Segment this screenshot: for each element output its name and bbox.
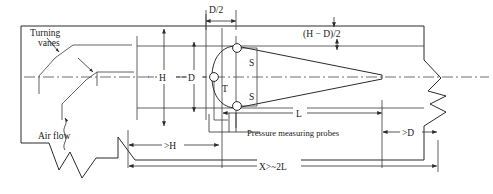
air-flow-label: Air flow (38, 131, 71, 141)
dimension-label-gap: (H − D)/2 (303, 29, 341, 40)
dimension-label-greater-h: >H (164, 141, 176, 151)
diagram-canvas: Turning vanes Air flow (0, 0, 493, 194)
dimension-label-greater-d: >D (402, 128, 414, 138)
turning-vanes-label-line1: Turning (30, 28, 61, 38)
dimension-label-d: D (188, 73, 195, 83)
turning-vanes-label-line2: vanes (38, 38, 60, 48)
probe-label-t: T (222, 84, 228, 94)
static-probe-bottom (233, 102, 242, 111)
dimension-label-h: H (159, 73, 166, 83)
dimension-label-l: L (296, 109, 302, 119)
pressure-probes-group (210, 44, 257, 120)
dimension-label-total-x: X>~2L (259, 162, 287, 172)
static-probe-top (233, 44, 242, 53)
turning-vanes-group (39, 45, 134, 120)
probe-label-s-top: S (249, 58, 254, 68)
pressure-probes-label: Pressure measuring probes (247, 128, 340, 138)
wind-tunnel-schematic: Turning vanes Air flow (0, 0, 493, 194)
total-probe-nose (210, 73, 219, 82)
dimension-label-d-half: D/2 (209, 5, 224, 15)
probe-label-s-bottom: S (249, 92, 254, 102)
